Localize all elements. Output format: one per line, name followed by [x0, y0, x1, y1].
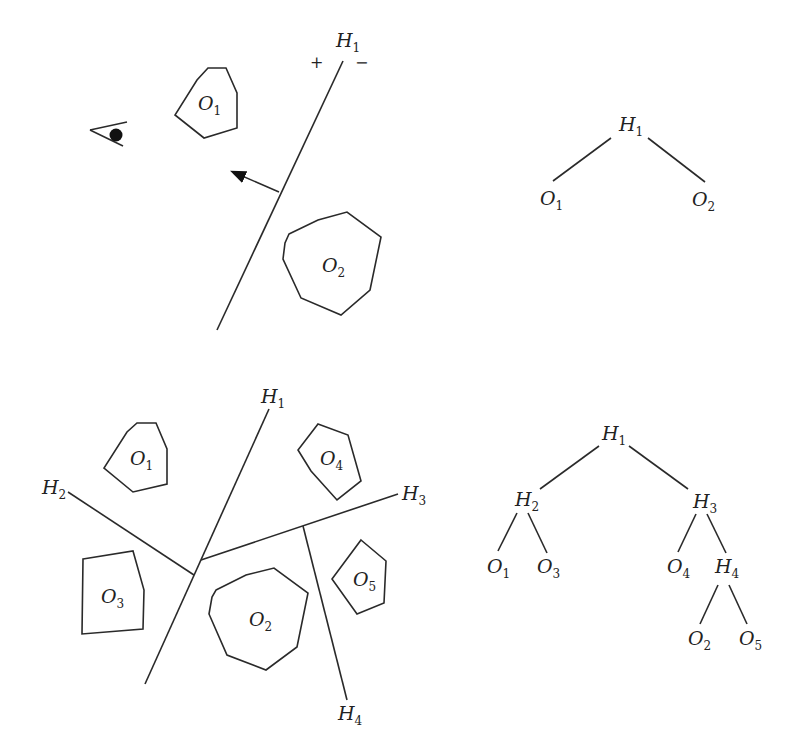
plane-h1-label: H1	[260, 385, 285, 411]
positive-side-sign: +	[310, 53, 323, 72]
tree-edge	[629, 446, 688, 489]
tree-node-o3: O3	[537, 555, 560, 581]
object-o2-label: O2	[249, 608, 272, 634]
bottom-scene: H1 H2 H3 H4 O1 O3 O2 O4 O5	[41, 385, 426, 728]
plane-h1-line	[145, 409, 269, 684]
tree-edge	[700, 585, 718, 624]
plane-h3-label: H3	[401, 482, 426, 508]
tree-edge	[498, 513, 517, 551]
tree-node-o4: O4	[667, 555, 691, 581]
object-o2-label: O2	[322, 254, 345, 280]
object-o1-label: O1	[130, 447, 153, 473]
tree-edge	[648, 138, 705, 182]
tree-node-o1: O1	[540, 187, 563, 213]
object-o1-label: O1	[198, 92, 221, 118]
plane-h2-label: H2	[41, 476, 66, 502]
bottom-tree: H1 H2 H3 O1 O3 O4 H4 O2 O5	[487, 422, 762, 653]
plane-h4-line	[303, 526, 347, 700]
tree-edge	[678, 514, 696, 552]
tree-node-o2: O2	[688, 627, 711, 653]
object-o3-label: O3	[101, 585, 124, 611]
top-tree: H1 O1 O2	[540, 113, 715, 214]
negative-side-sign: −	[355, 53, 368, 72]
tree-edge	[729, 585, 747, 624]
plane-h4-label: H4	[337, 702, 363, 728]
arrow-icon	[233, 172, 279, 192]
eye-icon	[90, 122, 127, 146]
plane-h1-label: H1	[335, 29, 360, 55]
tree-edge	[540, 446, 599, 489]
tree-edge	[528, 513, 547, 553]
tree-node-h1: H1	[618, 113, 643, 139]
object-o4-label: O4	[320, 447, 344, 473]
bsp-tree-diagram: H1 + − O1 O2 H1 O1 O2 H1 H2 H3 H4 O	[0, 0, 791, 742]
plane-h2-line	[68, 492, 194, 575]
tree-node-o2: O2	[692, 188, 715, 214]
tree-node-o5: O5	[739, 627, 762, 653]
tree-node-o1: O1	[487, 555, 510, 581]
top-scene: H1 + − O1 O2	[90, 29, 381, 330]
plane-h3-line	[201, 494, 398, 560]
tree-node-h1: H1	[601, 422, 626, 448]
plane-h1-line	[217, 61, 343, 330]
tree-node-h4: H4	[714, 555, 740, 581]
tree-edge	[707, 514, 726, 553]
tree-node-h3: H3	[692, 490, 717, 516]
tree-edge	[553, 138, 611, 181]
tree-node-h2: H2	[514, 488, 539, 514]
object-o5-label: O5	[353, 568, 376, 594]
